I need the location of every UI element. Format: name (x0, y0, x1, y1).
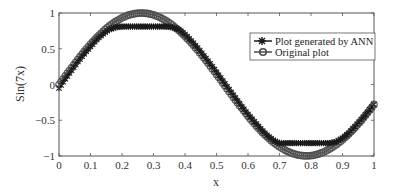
y-axis-label: Sin(7x) (13, 66, 27, 102)
x-tick-label: 0.4 (178, 159, 192, 171)
x-tick-label: 0.1 (84, 159, 98, 171)
star-marker-line-icon (258, 37, 266, 45)
x-tick-label: 0.8 (304, 159, 318, 171)
y-tick-label: 1 (50, 7, 56, 19)
y-tick-label: 0.5 (41, 43, 55, 55)
x-tick-label: 0.6 (241, 159, 255, 171)
legend-label-ann: Plot generated by ANN (275, 36, 374, 47)
line-chart: 00.10.20.30.40.50.60.70.80.91 −1−0.500.5… (0, 0, 396, 193)
x-tick-label: 0.5 (210, 159, 224, 171)
x-tick-label: 0 (56, 159, 62, 171)
y-tick-label: 0 (50, 79, 56, 91)
x-tick-label: 0.3 (147, 159, 161, 171)
x-tick-label: 1 (371, 159, 377, 171)
x-tick-label: 0.2 (115, 159, 129, 171)
legend: Plot generated by ANN Original plot (250, 33, 375, 60)
legend-label-original: Original plot (275, 47, 329, 58)
x-axis-label: x (213, 175, 219, 189)
x-tick-label: 0.7 (273, 159, 287, 171)
y-tick-label: −0.5 (35, 114, 55, 126)
x-tick-label: 0.9 (336, 159, 350, 171)
y-tick-label: −1 (43, 150, 55, 162)
